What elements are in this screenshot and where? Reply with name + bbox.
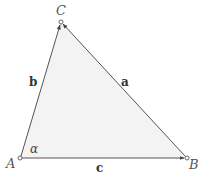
triangle-diagram: C A B b a c α	[0, 0, 204, 179]
side-label-c: c	[96, 161, 103, 175]
vertex-label-c: C	[56, 3, 66, 18]
triangle-face	[20, 22, 187, 158]
vertex-label-b: B	[188, 157, 199, 172]
vertex-c-point	[59, 20, 63, 24]
side-label-b: b	[29, 75, 37, 89]
side-label-a: a	[121, 75, 129, 89]
vertex-label-a: A	[5, 156, 15, 171]
vertex-a-point	[18, 156, 22, 160]
angle-label-alpha: α	[30, 142, 38, 156]
